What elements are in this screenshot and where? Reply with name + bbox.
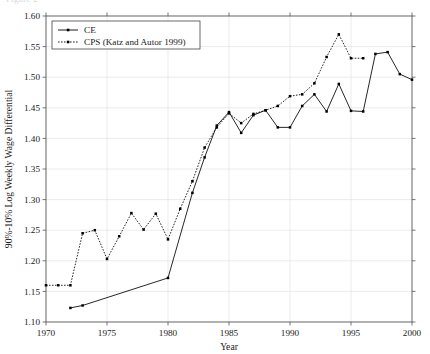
wage-differential-line-chart: 1.101.151.201.251.301.351.401.451.501.55… — [0, 0, 430, 354]
y-tick-label: 1.15 — [24, 287, 40, 297]
data-point-marker — [277, 105, 280, 108]
data-point-marker — [106, 258, 109, 261]
y-axis-title: 90%-10% Log Weekly Wage Differential — [3, 90, 14, 249]
data-point-marker — [203, 156, 206, 159]
figure-caption-text: Figure 2 — [0, 0, 38, 4]
legend-marker — [67, 41, 70, 44]
figure-container: Figure 2 1.101.151.201.251.301.351.401.4… — [0, 0, 430, 354]
data-point-marker — [350, 110, 353, 113]
data-point-marker — [374, 53, 377, 56]
y-tick-label: 1.40 — [24, 134, 40, 144]
data-point-marker — [301, 93, 304, 96]
legend-entry-label[interactable]: CE — [84, 25, 96, 35]
x-tick-label: 1995 — [342, 328, 361, 338]
data-point-marker — [289, 126, 292, 129]
data-point-marker — [191, 192, 194, 195]
gridlines — [46, 16, 412, 322]
data-point-marker — [338, 83, 341, 86]
x-tick-label: 1980 — [159, 328, 178, 338]
data-point-marker — [350, 57, 353, 60]
data-point-marker — [69, 284, 72, 287]
x-tick-label: 1985 — [220, 328, 239, 338]
x-tick-label: 1970 — [37, 328, 56, 338]
y-tick-label: 1.60 — [24, 11, 40, 21]
data-point-marker — [301, 105, 304, 108]
data-point-marker — [81, 232, 84, 235]
data-point-marker — [142, 228, 145, 231]
data-point-marker — [362, 57, 365, 60]
y-axis-tick-labels: 1.101.151.201.251.301.351.401.451.501.55… — [24, 11, 40, 327]
x-axis-tick-labels: 1970197519801985199019952000 — [37, 328, 422, 338]
data-point-marker — [240, 132, 243, 135]
y-tick-label: 1.30 — [24, 195, 40, 205]
data-point-marker — [386, 51, 389, 54]
data-point-marker — [167, 277, 170, 280]
data-point-marker — [277, 126, 280, 129]
x-tick-label: 2000 — [403, 328, 422, 338]
data-point-marker — [94, 229, 97, 232]
data-point-marker — [216, 126, 219, 129]
data-point-marker — [240, 122, 243, 125]
data-point-marker — [191, 180, 194, 183]
x-axis-title: Year — [220, 341, 238, 352]
data-point-marker — [313, 82, 316, 85]
data-point-marker — [264, 109, 267, 112]
data-point-marker — [81, 304, 84, 307]
data-point-marker — [289, 95, 292, 98]
legend-entry-label[interactable]: CPS (Katz and Autor 1999) — [84, 37, 186, 47]
x-tick-label: 1975 — [98, 328, 117, 338]
y-tick-label: 1.55 — [24, 42, 40, 52]
data-point-marker — [69, 307, 72, 310]
x-tick-label: 1990 — [281, 328, 300, 338]
data-point-marker — [228, 112, 231, 115]
chart-legend[interactable]: CECPS (Katz and Autor 1999) — [52, 21, 200, 49]
data-point-marker — [338, 33, 341, 36]
y-tick-label: 1.10 — [24, 317, 40, 327]
data-point-marker — [203, 146, 206, 149]
data-point-marker — [130, 212, 133, 215]
y-tick-label: 1.50 — [24, 72, 40, 82]
data-point-marker — [313, 93, 316, 96]
y-tick-label: 1.45 — [24, 103, 40, 113]
data-point-marker — [252, 113, 255, 116]
data-point-marker — [325, 56, 328, 59]
series-line-cps — [46, 34, 363, 285]
y-tick-label: 1.25 — [24, 225, 40, 235]
data-point-marker — [167, 238, 170, 241]
data-point-marker — [45, 284, 48, 287]
data-point-marker — [118, 235, 121, 238]
y-tick-label: 1.20 — [24, 256, 40, 266]
y-tick-label: 1.35 — [24, 164, 40, 174]
data-point-marker — [325, 110, 328, 113]
data-point-marker — [411, 78, 414, 81]
data-point-marker — [57, 284, 60, 287]
data-point-marker — [399, 73, 402, 76]
data-point-marker — [179, 208, 182, 211]
series-line-ce — [70, 52, 412, 308]
data-point-marker — [155, 212, 158, 215]
data-point-marker — [362, 110, 365, 113]
legend-marker — [67, 29, 70, 32]
figure-caption-cutoff: Figure 2 — [0, 0, 430, 9]
